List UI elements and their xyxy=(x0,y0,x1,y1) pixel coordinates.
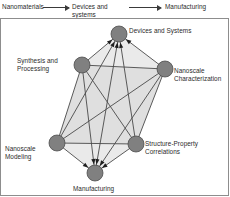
flow-label-manufacturing: Manufacturing xyxy=(165,3,206,11)
node-label-synthesis-and-processing: Synthesis and Processing xyxy=(17,57,58,73)
diagram-node-modeling xyxy=(49,135,65,151)
node-label-nanoscale-characterization: Nanoscale Characterization xyxy=(174,67,221,83)
diagram-node-synthesis xyxy=(74,57,90,73)
arrow-head xyxy=(65,5,70,11)
top-flow-row: Nanomaterials Devices and systems Manufa… xyxy=(0,0,230,20)
arrow-devices-to-manufacturing-icon xyxy=(129,4,161,11)
diagram-node-manufact xyxy=(87,165,103,181)
flow-label-devices-and-systems: Devices and systems xyxy=(72,3,114,18)
node-label-manufacturing: Manufacturing xyxy=(73,185,114,193)
diagram-node-devices xyxy=(111,26,127,42)
node-label-structure-property-correlations: Structure-Property Correlations xyxy=(145,140,198,156)
diagram-node-charact xyxy=(157,61,173,77)
diagram-node-structure xyxy=(128,136,144,152)
diagram-frame: Devices and Systems Synthesis and Proces… xyxy=(0,18,229,196)
node-link-diagram xyxy=(1,19,228,195)
node-label-devices-and-systems: Devices and Systems xyxy=(129,27,191,35)
node-label-nanoscale-modeling: Nanoscale Modeling xyxy=(5,145,36,161)
figure-canvas: Nanomaterials Devices and systems Manufa… xyxy=(0,0,230,197)
flow-label-nanomaterials: Nanomaterials xyxy=(2,3,44,11)
arrow-nanomaterials-to-devices-icon xyxy=(43,4,69,11)
arrow-head xyxy=(157,5,162,11)
